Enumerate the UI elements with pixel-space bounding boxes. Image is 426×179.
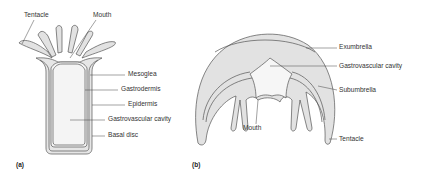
label-medusa-exumbrella: Exumbrella: [339, 44, 372, 51]
label-polyp-mesoglea: Mesoglea: [128, 71, 157, 78]
label-polyp-gastrodermis: Gastrodermis: [121, 86, 161, 93]
label-polyp-gastrovascular-cavity: Gastrovascular cavity: [108, 116, 171, 123]
polyp-body-inner: [51, 62, 87, 147]
label-polyp-mouth: Mouth: [93, 12, 111, 19]
label-polyp-tentacle: Tentacle: [24, 12, 49, 19]
medusa-drawing: [196, 34, 335, 145]
polyp-tentacles: [19, 25, 115, 58]
label-medusa-mouth: Mouth: [243, 125, 261, 132]
label-medusa-gastrovascular-cavity: Gastrovascular cavity: [339, 63, 402, 70]
label-medusa-tentacle: Tentacle: [339, 136, 364, 143]
label-polyp-basal-disc: Basal disc: [108, 132, 138, 139]
polyp-drawing: [19, 25, 115, 154]
panel-tag-a: (a): [16, 161, 24, 168]
label-medusa-subumbrella: Subumbrella: [339, 87, 376, 94]
panel-tag-b: (b): [192, 161, 200, 168]
label-polyp-epidermis: Epidermis: [128, 101, 157, 108]
